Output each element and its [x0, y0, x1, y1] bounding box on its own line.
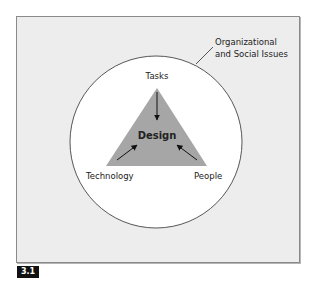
- people-label: People: [194, 171, 222, 181]
- context-label-line1: Organizational: [215, 37, 277, 47]
- design-context-diagram: Design Tasks Technology People Organizat…: [0, 0, 314, 290]
- technology-label: Technology: [85, 171, 134, 181]
- leader-line: [196, 47, 213, 64]
- figure-number-tag: 3.1: [17, 266, 39, 278]
- context-label-line2: and Social Issues: [215, 49, 289, 59]
- tasks-label: Tasks: [145, 71, 169, 81]
- design-label: Design: [138, 130, 177, 141]
